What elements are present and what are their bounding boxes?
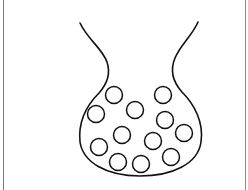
particle-circle	[145, 133, 162, 150]
particles-group	[88, 87, 193, 173]
particle-circle	[91, 139, 108, 156]
particle-circle	[127, 102, 144, 119]
particle-circle	[133, 156, 150, 173]
flask-diagram	[0, 0, 248, 190]
particle-circle	[157, 112, 174, 129]
particle-circle	[155, 87, 172, 104]
diagram-frame: flask-shaped vessel containing particles	[0, 0, 248, 190]
particle-circle	[106, 87, 123, 104]
particle-circle	[163, 149, 180, 166]
particle-circle	[114, 127, 131, 144]
vessel-outline	[80, 22, 202, 176]
particle-circle	[88, 106, 105, 123]
particle-circle	[110, 154, 127, 171]
particle-circle	[176, 125, 193, 142]
